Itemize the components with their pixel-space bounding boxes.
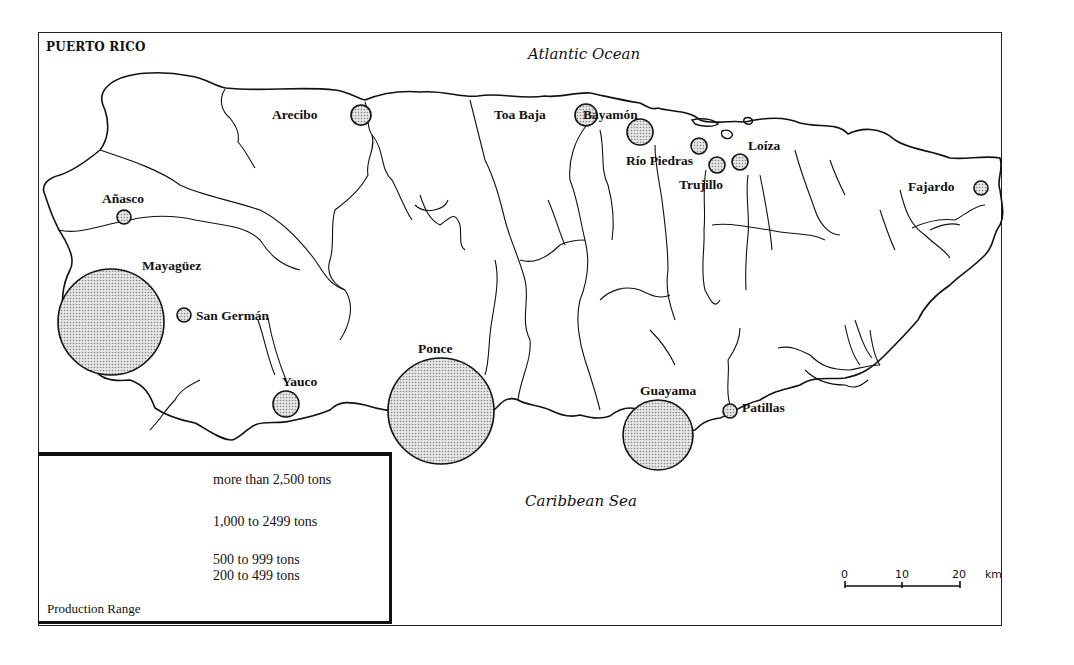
city-marker-loíza xyxy=(732,154,748,170)
legend-label-small: 200 to 499 tons xyxy=(213,568,300,584)
city-label: San Germán xyxy=(196,308,269,324)
city-marker-mayagüez xyxy=(58,269,164,375)
legend-label-largest: more than 2,500 tons xyxy=(213,472,331,488)
island-outline xyxy=(43,73,1002,440)
city-label: Fajardo xyxy=(908,179,955,195)
legend-label-large: 1,000 to 2499 tons xyxy=(213,514,317,530)
city-marker-san-germán xyxy=(177,308,191,322)
legend-label-medium: 500 to 999 tons xyxy=(213,552,300,568)
scale-tick-20: 20 xyxy=(952,568,966,581)
scale-bar xyxy=(845,581,960,588)
city-marker-fajardo xyxy=(974,181,988,195)
city-marker-yauco xyxy=(273,391,299,417)
coastal-detail xyxy=(722,130,733,138)
legend-box: more than 2,500 tons 1,000 to 2499 tons … xyxy=(38,452,392,624)
scale-tick-10: 10 xyxy=(895,568,909,581)
city-marker-añasco xyxy=(117,210,131,224)
city-label: Arecibo xyxy=(272,107,318,123)
city-label: Toa Baja xyxy=(494,107,546,123)
city-label: Mayagüez xyxy=(142,258,201,274)
city-marker-ponce xyxy=(388,358,494,464)
city-label: Patillas xyxy=(742,400,785,416)
city-label: Yauco xyxy=(282,374,317,390)
city-marker-patillas xyxy=(723,404,737,418)
atlantic-ocean-label: Atlantic Ocean xyxy=(528,45,640,63)
city-marker-guayama xyxy=(623,400,693,470)
city-marker-trujillo xyxy=(709,157,725,173)
city-label: Loíza xyxy=(748,138,780,154)
city-label: Río Piedras xyxy=(626,153,693,169)
legend-title: Production Range xyxy=(47,601,141,617)
scale-tick-0: 0 xyxy=(841,568,848,581)
caribbean-sea-label: Caribbean Sea xyxy=(525,492,637,510)
city-label: Bayamón xyxy=(583,107,638,123)
city-label: Guayama xyxy=(640,383,696,399)
city-label: Añasco xyxy=(102,191,144,207)
scale-unit: km xyxy=(985,568,1002,581)
city-label: Ponce xyxy=(418,341,453,357)
city-marker-arecibo xyxy=(351,105,371,125)
map-title: PUERTO RICO xyxy=(46,40,146,54)
city-label: Trujillo xyxy=(679,177,723,193)
city-marker-río-piedras xyxy=(691,138,707,154)
